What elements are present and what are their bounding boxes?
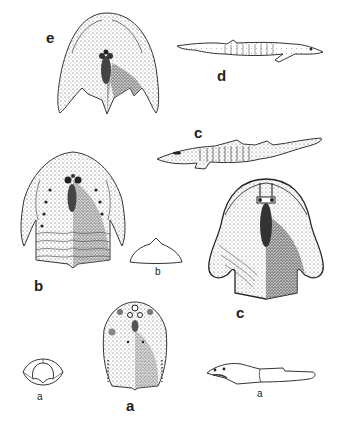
figure-a-cross-label: a <box>37 392 43 402</box>
figure-d-label: d <box>217 68 226 83</box>
figure-a-label: a <box>126 398 134 413</box>
figure-c-lateral-fish <box>155 135 325 180</box>
figure-c-label: c <box>236 305 244 320</box>
figure-a-side-label: a <box>257 389 263 399</box>
figure-e-head-shield <box>52 8 162 118</box>
figure-b-label: b <box>34 278 43 293</box>
figure-b-head-shield <box>18 150 128 270</box>
figure-b-cross-section <box>128 236 184 266</box>
figure-d-lateral-fish <box>175 32 325 72</box>
figure-a-head-shield <box>100 300 170 390</box>
figure-a-lateral-outline <box>205 360 320 390</box>
figure-a-cross-section <box>21 357 65 387</box>
figure-b-cross-label: b <box>155 267 161 277</box>
figure-c-head-shield <box>205 175 327 305</box>
